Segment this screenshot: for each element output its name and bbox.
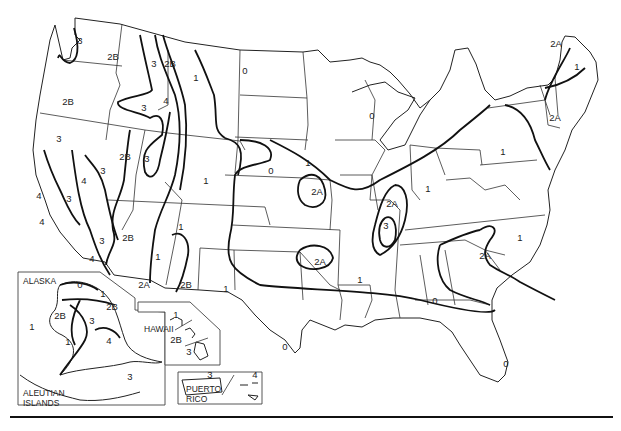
zone-label: 0 — [282, 342, 287, 352]
zone-label: 1 — [65, 337, 70, 347]
zone-label: 2B — [119, 152, 131, 162]
zone-label: 3 — [127, 372, 132, 382]
zone-label: 4 — [89, 254, 94, 264]
zone-label: 4 — [106, 336, 111, 346]
zone-label: 3 — [99, 236, 104, 246]
zone-label: 0 — [242, 66, 247, 76]
zone-label: 4 — [163, 96, 168, 106]
puerto-rico-label-line1: PUERTO — [186, 385, 221, 394]
zone-label: 3 — [151, 59, 156, 69]
zone-label: 2A — [479, 251, 491, 261]
zone-label: 3 — [77, 36, 82, 46]
zone-label: 1 — [173, 310, 178, 320]
zone-label: 3 — [66, 194, 71, 204]
zone-label: 3 — [141, 103, 146, 113]
zone-label: 2B — [107, 52, 119, 62]
zone-label: 0 — [268, 166, 273, 176]
zone-label: 1 — [155, 252, 160, 262]
zone-label: 1 — [203, 176, 208, 186]
zone-label: 0 — [432, 296, 437, 306]
zone-label: 1 — [100, 289, 105, 299]
zone-label: 2B — [164, 59, 176, 69]
hawaii-label: HAWAII — [144, 325, 174, 334]
aleutian-label-line2: ISLANDS — [23, 399, 59, 408]
zone-label: 3 — [89, 316, 94, 326]
zone-label: 1 — [500, 147, 505, 157]
zone-label: 2A — [311, 187, 323, 197]
map-graphic — [0, 0, 621, 431]
zone-label: 2B — [54, 311, 66, 321]
zone-label: 2A — [386, 199, 398, 209]
zone-label: 2A — [314, 257, 326, 267]
zone-label: 2A — [138, 280, 150, 290]
zone-label: 1 — [305, 158, 310, 168]
zone-label: 2B — [62, 97, 74, 107]
zone-label: 4 — [81, 176, 86, 186]
zone-label: 3 — [186, 347, 191, 357]
zone-label: 2B — [122, 233, 134, 243]
zone-label: 1 — [425, 184, 430, 194]
zone-label: 1 — [223, 284, 228, 294]
zone-label: 1 — [29, 322, 34, 332]
zone-label: 1 — [574, 62, 579, 72]
zone-boundaries — [44, 28, 585, 312]
zone-label: 4 — [252, 370, 257, 380]
seismic-zone-map: ALASKA ALEUTIAN ISLANDS HAWAII PUERTO RI… — [0, 0, 621, 431]
bottom-divider — [10, 416, 613, 418]
zone-label: 2A — [550, 39, 562, 49]
zone-label: 0 — [369, 111, 374, 121]
zone-label: 3 — [383, 221, 388, 231]
zone-label: 0 — [503, 359, 508, 369]
zone-label: 3 — [144, 154, 149, 164]
zone-label: 3 — [56, 134, 61, 144]
alaska-inset — [18, 272, 165, 405]
zone-label: 4 — [39, 217, 44, 227]
zone-label: 1 — [517, 233, 522, 243]
zone-label: 4 — [36, 191, 41, 201]
zone-label: 2B — [170, 335, 182, 345]
zone-label: 2A — [549, 113, 561, 123]
zone-label: 1 — [357, 275, 362, 285]
zone-label: 0 — [77, 280, 82, 290]
puerto-rico-label-line2: RICO — [186, 395, 207, 404]
zone-label: 2B — [106, 302, 118, 312]
zone-label: 3 — [100, 166, 105, 176]
zone-label: 3 — [207, 370, 212, 380]
zone-label: 1 — [178, 222, 183, 232]
aleutian-label-line1: ALEUTIAN — [23, 389, 65, 398]
alaska-label: ALASKA — [23, 277, 56, 286]
zone-label: 1 — [193, 73, 198, 83]
zone-label: 2B — [180, 280, 192, 290]
